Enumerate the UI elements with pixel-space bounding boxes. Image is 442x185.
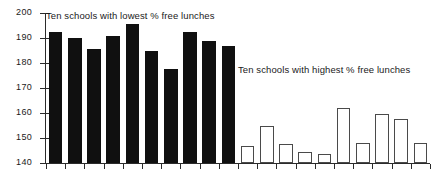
x-axis-tick [392, 164, 393, 169]
x-axis-tick [372, 164, 373, 169]
x-axis-tick [123, 164, 124, 169]
x-axis-tick [104, 164, 105, 169]
bar [337, 108, 350, 163]
bar [145, 51, 158, 164]
bar [164, 69, 177, 163]
bar [375, 114, 388, 163]
bar [394, 119, 407, 163]
bar [202, 41, 215, 164]
x-axis-tick [411, 164, 412, 169]
x-axis-tick [353, 164, 354, 169]
y-axis-label: 190 [6, 33, 32, 42]
bar [279, 144, 292, 163]
lowest-label: Ten schools with lowest % free lunches [46, 10, 215, 21]
x-axis-tick [430, 164, 431, 169]
bar [414, 143, 427, 163]
x-axis-tick [142, 164, 143, 169]
bar [106, 36, 119, 164]
bar [87, 49, 100, 163]
bar [126, 24, 139, 163]
x-axis-tick [238, 164, 239, 169]
x-axis-tick [315, 164, 316, 169]
x-axis-tick [276, 164, 277, 169]
x-axis-tick [65, 164, 66, 169]
y-axis-label: 160 [6, 108, 32, 117]
x-axis-tick [180, 164, 181, 169]
x-axis-tick [84, 164, 85, 169]
x-axis-tick [161, 164, 162, 169]
highest-label: Ten schools with highest % free lunches [238, 64, 410, 75]
bar [241, 146, 254, 164]
y-axis-label: 180 [6, 58, 32, 67]
bar [222, 46, 235, 164]
y-axis-label: 170 [6, 83, 32, 92]
bar [68, 38, 81, 163]
x-axis-tick [46, 164, 47, 169]
y-axis-label: 150 [6, 133, 32, 142]
bar [318, 154, 331, 163]
y-axis-label: 140 [6, 158, 32, 167]
x-axis-tick [219, 164, 220, 169]
bar [183, 32, 196, 163]
bar [260, 126, 273, 164]
x-axis-tick [257, 164, 258, 169]
bar-chart: 140150160170180190200Ten schools with lo… [0, 0, 442, 185]
bar [298, 152, 311, 163]
x-axis-tick [296, 164, 297, 169]
y-axis-label: 200 [6, 8, 32, 17]
x-axis-tick [334, 164, 335, 169]
bar [49, 32, 62, 163]
x-axis-tick [200, 164, 201, 169]
bar [356, 143, 369, 163]
